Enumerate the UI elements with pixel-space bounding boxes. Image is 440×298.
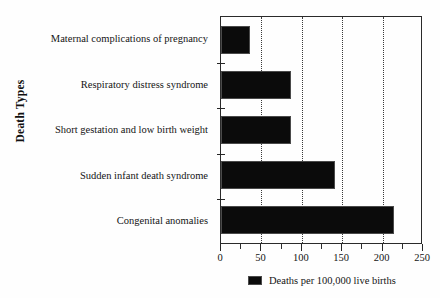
x-axis-tick bbox=[301, 244, 302, 251]
bar-row bbox=[221, 198, 421, 243]
x-axis-minor-tick bbox=[321, 244, 322, 249]
bar bbox=[221, 161, 335, 189]
category-label-text: Short gestation and low birth weight bbox=[55, 124, 214, 136]
x-axis-minor-tick bbox=[281, 244, 282, 249]
x-axis-tick bbox=[422, 244, 423, 251]
category-label-item: Sudden infant death syndrome bbox=[26, 153, 214, 199]
x-axis-tick bbox=[341, 244, 342, 251]
bar bbox=[221, 26, 250, 54]
bar bbox=[221, 206, 394, 234]
bar-row bbox=[221, 107, 421, 152]
y-axis-tick bbox=[217, 199, 225, 200]
x-axis-tick-label: 250 bbox=[414, 252, 430, 263]
legend: Deaths per 100,000 live births bbox=[248, 275, 396, 286]
plot-area bbox=[220, 16, 422, 244]
x-axis-tick-label: 50 bbox=[255, 252, 266, 263]
bar bbox=[221, 116, 291, 144]
y-axis-tick bbox=[217, 154, 225, 155]
x-axis-tick-label: 0 bbox=[217, 252, 222, 263]
x-axis-tick bbox=[260, 244, 261, 251]
category-label-text: Respiratory distress syndrome bbox=[81, 79, 214, 91]
y-axis-tick bbox=[217, 63, 225, 64]
category-label-column: Maternal complications of pregnancy Resp… bbox=[26, 16, 214, 244]
category-label-item: Respiratory distress syndrome bbox=[26, 62, 214, 108]
x-axis-tick-label: 200 bbox=[374, 252, 390, 263]
category-label-item: Maternal complications of pregnancy bbox=[26, 16, 214, 62]
legend-swatch-icon bbox=[248, 276, 262, 285]
y-axis-tick bbox=[217, 108, 225, 109]
bar-row bbox=[221, 62, 421, 107]
x-axis-tick-label: 100 bbox=[293, 252, 309, 263]
bar-chart: Death Types Maternal complications of pr… bbox=[0, 0, 440, 298]
category-label-text: Maternal complications of pregnancy bbox=[51, 33, 214, 45]
category-label-item: Congenital anomalies bbox=[26, 198, 214, 244]
x-axis-tick bbox=[220, 244, 221, 251]
x-axis-minor-tick bbox=[361, 244, 362, 249]
x-axis-tick-label: 150 bbox=[333, 252, 349, 263]
category-label-text: Sudden infant death syndrome bbox=[80, 170, 214, 182]
category-label-text: Congenital anomalies bbox=[117, 215, 214, 227]
bar bbox=[221, 71, 291, 99]
bar-group bbox=[221, 17, 421, 243]
bar-row bbox=[221, 17, 421, 62]
x-axis-tick bbox=[382, 244, 383, 251]
y-axis-title: Death Types bbox=[14, 51, 26, 171]
bar-row bbox=[221, 153, 421, 198]
legend-label: Deaths per 100,000 live births bbox=[269, 275, 396, 286]
x-axis: 050100150200250 bbox=[220, 244, 422, 274]
x-axis-minor-tick bbox=[402, 244, 403, 249]
x-axis-minor-tick bbox=[240, 244, 241, 249]
category-label-item: Short gestation and low birth weight bbox=[26, 107, 214, 153]
